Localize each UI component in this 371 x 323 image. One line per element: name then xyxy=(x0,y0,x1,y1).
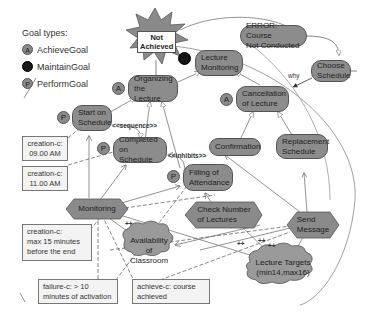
resource-line: (min14,max16) xyxy=(252,268,314,278)
legend-achieve: A AchieveGoal xyxy=(22,44,88,55)
note-achieve: achieve-c: course achieved xyxy=(132,279,210,304)
legend-label: PerformGoal xyxy=(37,79,88,89)
note-line: minutes of activation xyxy=(43,292,113,302)
resource-line: of Classroom xyxy=(126,246,172,266)
plus-label: ++ xyxy=(268,242,276,249)
edge-send-replacement xyxy=(304,173,307,212)
legend-title: Goal types: xyxy=(22,28,68,38)
plus-label: ++ xyxy=(237,240,245,247)
goal-line: Completed xyxy=(119,135,161,145)
edge-replacement-cancel xyxy=(278,112,292,135)
goal-line: on Schedule xyxy=(119,145,161,165)
goal-organizing-lecture[interactable]: Organizingthe Lecture xyxy=(128,75,178,102)
goal-line: of Lecture xyxy=(242,99,286,109)
role-line: Send xyxy=(297,215,329,225)
legend-label: MaintainGoal xyxy=(37,62,90,72)
achieve-badge-icon: A xyxy=(22,44,33,55)
legend-label: AchieveGoal xyxy=(37,45,88,55)
maintain-badge-icon xyxy=(22,61,33,72)
maintain-goal-badge-icon xyxy=(178,52,191,65)
role-monitoring[interactable]: Monitoring xyxy=(70,203,124,215)
goal-confirmation[interactable]: Confirmation xyxy=(209,138,261,156)
goal-line: Confirmation xyxy=(215,142,260,152)
goal-line: Not Conducted xyxy=(246,41,301,51)
goal-line: Schedule xyxy=(78,118,111,128)
goal-line: ERROR: Course xyxy=(246,21,301,41)
legend-maintain: MaintainGoal xyxy=(22,61,90,72)
goal-line: Start on xyxy=(78,108,111,118)
edge-monitoring-filling xyxy=(118,186,180,204)
goal-completed-on-schedule[interactable]: Completedon Schedule xyxy=(113,137,167,163)
role-line: Message xyxy=(297,225,329,235)
note-creation-1100: creation-c: 11.00 AM xyxy=(22,166,68,191)
goal-choose-schedule[interactable]: ChooseSchedule xyxy=(311,60,351,82)
plus-label: ++ xyxy=(258,237,266,244)
not-achieved-label: Not Achieved xyxy=(137,31,176,53)
note-line: before the end xyxy=(27,247,87,257)
resource-line: Availability xyxy=(126,236,172,246)
resource-lecture-targets[interactable]: Lecture Targets (min14,max16) xyxy=(252,258,314,278)
goal-line: Cancellation xyxy=(242,89,286,99)
role-line: of Lectures xyxy=(197,215,250,225)
note-line: creation-c: xyxy=(27,139,63,149)
note-line: creation-c: xyxy=(27,169,63,179)
achieve-badge-icon: A xyxy=(112,82,125,95)
goal-filling-attendance[interactable]: Filling ofAttendance xyxy=(183,164,233,191)
goal-line: Lecture xyxy=(201,53,238,63)
resource-line: Lecture Targets xyxy=(252,258,314,268)
edge-error-choose xyxy=(305,36,339,55)
resource-availability[interactable]: Availability of Classroom xyxy=(126,236,172,266)
role-line: Check Number xyxy=(197,205,250,215)
achieve-badge-icon: A xyxy=(220,93,233,106)
edge-organizing-monitoring xyxy=(178,72,200,82)
note-creation-0900: creation-c: 09.00 AM xyxy=(22,136,68,161)
inhibits-label: <<inhibits>> xyxy=(168,152,206,159)
goal-line: Attendance xyxy=(189,178,229,188)
note-creation-max15: creation-c: max 15 minutes before the en… xyxy=(22,224,92,261)
goal-line: Filling of xyxy=(189,168,229,178)
sequence-label: <<sequence>> xyxy=(112,122,157,129)
perform-badge-icon: P xyxy=(57,111,70,124)
perform-badge-icon: P xyxy=(97,142,110,155)
note-line: 11.00 AM xyxy=(27,179,63,189)
goal-line: Replacement xyxy=(282,137,329,147)
goal-lecture-monitoring[interactable]: LectureMonitoring xyxy=(195,50,243,76)
perform-badge-icon: P xyxy=(167,170,180,183)
role-check-number[interactable]: Check Numberof Lectures xyxy=(193,204,255,226)
note-line: creation-c: xyxy=(27,227,87,237)
note-line: failure-c: > 10 xyxy=(43,282,113,292)
goal-line: Organizing xyxy=(134,74,173,84)
note-line: max 15 minutes xyxy=(27,237,87,247)
goal-line: Choose xyxy=(317,61,350,71)
note-line: achieved xyxy=(137,292,205,302)
role-send-message[interactable]: SendMessage xyxy=(292,214,334,236)
note-line: achieve-c: course xyxy=(137,282,205,292)
goal-line: Monitoring xyxy=(201,63,238,73)
edge-cancel-monitoring xyxy=(236,72,260,85)
note-line: 09.00 AM xyxy=(27,149,63,159)
goal-error-course[interactable]: ERROR: CourseNot Conducted xyxy=(240,25,307,47)
edge-confirmation-cancel xyxy=(240,112,253,140)
edge-choose-cancel xyxy=(293,78,312,87)
note-failure: failure-c: > 10 minutes of activation xyxy=(38,279,118,304)
goal-line: Schedule xyxy=(317,71,350,81)
goal-replacement-schedule[interactable]: ReplacementSchedule xyxy=(276,134,328,159)
why-label: why xyxy=(288,72,300,79)
goal-line: Schedule xyxy=(282,147,329,157)
edge-monitoring-completed xyxy=(100,165,126,200)
goal-cancellation-lecture[interactable]: Cancellationof Lecture xyxy=(236,86,289,112)
perform-badge-icon: P xyxy=(22,78,33,89)
star-line2: Achieved xyxy=(140,42,173,51)
star-line1: Not xyxy=(140,33,173,42)
legend-perform: P PerformGoal xyxy=(22,78,88,89)
goal-start-on-schedule[interactable]: Start onSchedule xyxy=(72,105,112,131)
goal-line: the Lecture xyxy=(134,84,173,104)
plus-label: ++ xyxy=(125,220,133,227)
